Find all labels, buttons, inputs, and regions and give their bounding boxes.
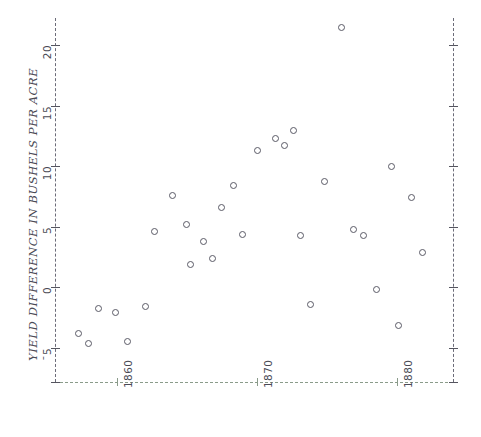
data-point (124, 338, 131, 345)
plot-area: ˉ505101520186018701880YIELD DIFFERENCE I… (0, 0, 481, 437)
y-tick-label: 5 (41, 227, 53, 253)
corner-tick-mark (449, 382, 458, 383)
data-point (230, 182, 237, 189)
y-axis-title: YIELD DIFFERENCE IN BUSHELS PER ACRE (26, 67, 40, 360)
data-point (388, 163, 395, 170)
y-tick-mark (449, 166, 458, 167)
data-point (321, 178, 328, 185)
y-tick-label: 10 (41, 166, 53, 192)
y-tick-label: ˉ5 (41, 348, 53, 374)
data-point (200, 238, 207, 245)
data-point (307, 301, 314, 308)
x-tick-mark (117, 378, 118, 386)
data-point (350, 226, 357, 233)
data-point (254, 147, 261, 154)
x-tick-label: 1860 (122, 359, 134, 387)
y-tick-mark (449, 45, 458, 46)
y-axis-right-line (453, 18, 454, 382)
data-point (209, 255, 216, 262)
data-point (218, 204, 225, 211)
data-point (95, 305, 102, 312)
data-point (419, 249, 426, 256)
x-tick-label: 1870 (262, 359, 274, 387)
y-tick-mark (449, 106, 458, 107)
data-point (187, 261, 194, 268)
data-point (169, 192, 176, 199)
y-tick-label: 20 (41, 45, 53, 71)
y-axis-left-line (55, 18, 56, 382)
data-point (183, 221, 190, 228)
x-tick-mark (257, 378, 258, 386)
data-point (373, 286, 380, 293)
data-point (272, 135, 279, 142)
x-tick-mark (397, 378, 398, 386)
data-point (281, 142, 288, 149)
x-axis-baseline (55, 382, 453, 383)
data-point (395, 322, 402, 329)
y-tick-mark (449, 227, 458, 228)
data-point (360, 232, 367, 239)
data-point (75, 330, 82, 337)
corner-tick-mark (51, 382, 60, 383)
scatter-plot-figure: ˉ505101520186018701880YIELD DIFFERENCE I… (0, 0, 481, 437)
data-point (239, 231, 246, 238)
data-point (112, 309, 119, 316)
data-point (290, 127, 297, 134)
y-tick-label: 0 (41, 287, 53, 313)
data-point (338, 24, 345, 31)
y-tick-label: 15 (41, 106, 53, 132)
data-point (85, 340, 92, 347)
data-point (151, 228, 158, 235)
data-point (297, 232, 304, 239)
y-tick-mark (449, 348, 458, 349)
x-tick-label: 1880 (402, 359, 414, 387)
y-tick-mark (449, 287, 458, 288)
data-point (142, 303, 149, 310)
data-point (408, 194, 415, 201)
